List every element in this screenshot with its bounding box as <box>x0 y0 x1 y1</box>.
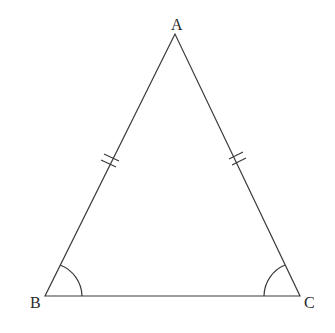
equal-side-ticks-ac <box>229 152 246 165</box>
angle-arc-b <box>60 265 82 296</box>
vertex-label-b: B <box>30 294 41 311</box>
angle-arc-c <box>264 265 285 296</box>
triangle-abc <box>45 34 300 296</box>
isosceles-triangle-diagram: A B C <box>0 0 335 333</box>
vertex-label-a: A <box>171 16 183 33</box>
vertex-label-c: C <box>304 294 315 311</box>
